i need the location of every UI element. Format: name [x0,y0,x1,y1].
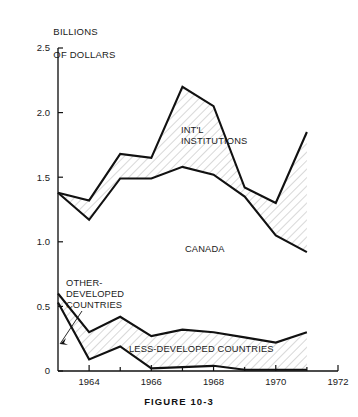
other-developed-label-line2: DEVELOPED [66,289,124,299]
y-tick-label: 2.0 [37,107,50,118]
y-tick-label: 0.5 [37,301,50,312]
x-tick-label: 1970 [265,376,286,387]
y-tick-label: 2.5 [37,42,50,53]
x-tick-label: 1964 [79,376,100,387]
other-developed-label-line1: OTHER- [66,278,103,288]
intl-institutions-label-line2: INSTITUTIONS [181,136,247,146]
y-tick-label: 1.5 [37,172,50,183]
other-developed-label-line3: COUNTRIES [66,300,122,310]
x-tick-label: 1972 [327,376,348,387]
less-developed-label: LESS-DEVELOPED COUNTRIES [129,344,274,354]
x-tick-label: 1968 [203,376,224,387]
intl-institutions-label-line1: INT'L [181,125,204,135]
canada-label: CANADA [185,244,225,254]
figure-container: BILLIONS OF DOLLARS 00.51.01.52.02.51964… [0,0,358,417]
figure-caption: FIGURE 10-3 [0,396,358,407]
y-tick-label: 0 [45,365,50,376]
x-tick-label: 1966 [141,376,162,387]
chart-plot: 00.51.01.52.02.519641966196819701972 INT… [0,0,358,417]
y-tick-label: 1.0 [37,236,50,247]
